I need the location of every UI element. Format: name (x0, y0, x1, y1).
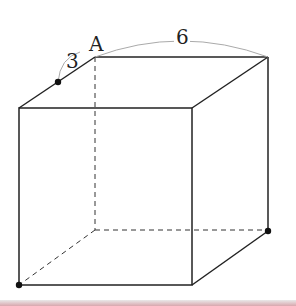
hidden-edge-bottom-left (19, 230, 95, 285)
edge-bottom-right (192, 231, 268, 285)
point-on-edge (55, 79, 61, 85)
edge-top-right (192, 57, 268, 108)
hidden-edges (19, 57, 268, 285)
label-segment-3: 3 (66, 49, 79, 73)
cube-diagram: A 3 6 (0, 0, 296, 306)
label-vertex-a: A (88, 32, 104, 56)
visible-edges (19, 57, 268, 285)
front-face (19, 108, 192, 285)
bottom-band (0, 300, 296, 306)
label-length-6: 6 (176, 25, 189, 49)
point-back-bottom-right (265, 228, 271, 234)
point-front-bottom-left (16, 282, 22, 288)
